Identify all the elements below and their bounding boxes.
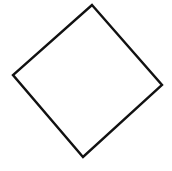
diamond-outline <box>13 5 162 157</box>
drawing-canvas <box>0 0 172 171</box>
diamond-shape <box>0 0 172 171</box>
